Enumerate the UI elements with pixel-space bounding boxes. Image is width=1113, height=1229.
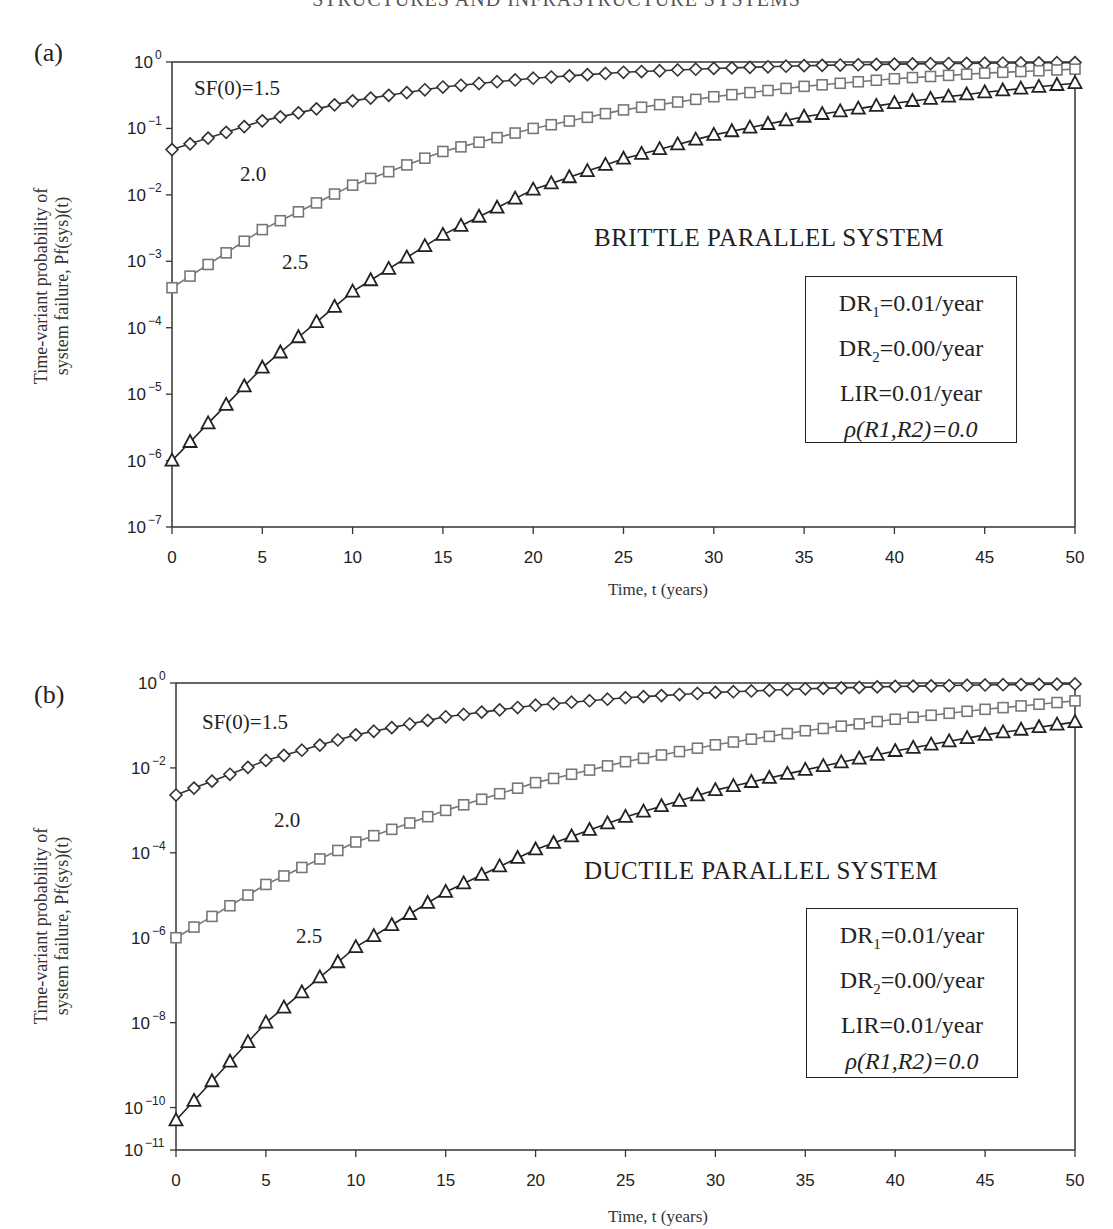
data-point — [944, 708, 954, 718]
data-point — [495, 789, 505, 799]
data-point — [690, 63, 702, 75]
data-point — [637, 691, 649, 703]
data-point — [315, 854, 325, 864]
data-point — [600, 109, 610, 119]
data-point — [530, 699, 542, 711]
x-tick-label: 25 — [614, 548, 633, 567]
y-tick-label: 10 — [134, 53, 153, 72]
data-point — [202, 132, 214, 144]
data-point — [310, 103, 322, 115]
data-point — [349, 940, 362, 952]
x-tick-label: 45 — [976, 1171, 995, 1190]
data-point — [367, 929, 380, 941]
data-point — [403, 907, 416, 919]
data-point — [475, 868, 488, 880]
data-point — [799, 81, 809, 91]
svg-text:−2: −2 — [148, 181, 162, 195]
data-point — [188, 782, 200, 794]
data-point — [347, 95, 359, 107]
data-point — [602, 693, 614, 705]
data-point — [382, 262, 395, 274]
data-point — [656, 750, 666, 760]
data-point — [998, 67, 1008, 77]
x-tick-label: 30 — [706, 1171, 725, 1190]
data-point — [764, 731, 774, 741]
chart-panel-a: 10010−110−210−310−410−510−610−7051015202… — [0, 40, 1113, 630]
data-point — [243, 890, 253, 900]
data-point — [673, 689, 685, 701]
svg-text:−6: −6 — [148, 447, 162, 461]
data-point — [871, 75, 881, 85]
data-point — [962, 706, 972, 716]
svg-text:0: 0 — [155, 48, 162, 62]
data-point — [185, 271, 195, 281]
data-point — [852, 59, 864, 71]
param-lir: LIR=0.01/year — [806, 375, 1016, 411]
series-label-sf25: 2.5 — [282, 250, 308, 275]
x-tick-label: 5 — [261, 1171, 270, 1190]
data-point — [512, 702, 524, 714]
data-point — [834, 59, 846, 71]
param-lir: LIR=0.01/year — [807, 1007, 1017, 1043]
data-point — [1016, 701, 1026, 711]
data-point — [545, 71, 557, 83]
data-point — [206, 775, 218, 787]
data-point — [531, 778, 541, 788]
x-tick-label: 25 — [616, 1171, 635, 1190]
data-point — [259, 1016, 272, 1028]
data-point — [692, 743, 702, 753]
data-point — [473, 78, 485, 90]
data-point — [458, 708, 470, 720]
data-point — [351, 837, 361, 847]
data-point — [385, 918, 398, 930]
data-point — [1034, 66, 1044, 76]
data-point — [295, 985, 308, 997]
y-tick-label: 10 — [131, 759, 150, 778]
data-point — [818, 723, 828, 733]
data-point — [439, 885, 452, 897]
data-point — [655, 690, 667, 702]
data-point — [889, 74, 899, 84]
x-tick-label: 15 — [436, 1171, 455, 1190]
y-axis-label: Time-variant probability of system failu… — [31, 751, 73, 1101]
data-point — [491, 201, 504, 213]
data-point — [1070, 696, 1080, 706]
y-tick-label: 10 — [131, 929, 150, 948]
series-label-sf15: SF(0)=1.5 — [202, 710, 288, 735]
chart-panel-b: 10010−210−410−610−810−1010−1105101520253… — [0, 660, 1113, 1229]
data-point — [962, 69, 972, 79]
data-point — [473, 210, 486, 222]
data-point — [727, 90, 737, 100]
data-point — [310, 315, 323, 327]
data-point — [365, 92, 377, 104]
data-point — [369, 831, 379, 841]
data-point — [314, 739, 326, 751]
data-point — [691, 687, 703, 699]
data-point — [998, 703, 1008, 713]
data-point — [853, 77, 863, 87]
param-dr2: DR2=0.00/year — [807, 962, 1017, 1007]
x-tick-label: 0 — [171, 1171, 180, 1190]
data-point — [476, 706, 488, 718]
param-dr1: DR1=0.01/year — [806, 285, 1016, 330]
data-point — [423, 812, 433, 822]
data-point — [528, 123, 538, 133]
data-point — [459, 800, 469, 810]
x-tick-label: 50 — [1066, 1171, 1085, 1190]
y-tick-label: 10 — [131, 1014, 150, 1033]
data-point — [420, 153, 430, 163]
x-tick-label: 5 — [258, 548, 267, 567]
param-dr1: DR1=0.01/year — [807, 917, 1017, 962]
data-point — [619, 105, 629, 115]
y-tick-label: 10 — [127, 319, 146, 338]
data-point — [387, 824, 397, 834]
x-tick-label: 10 — [343, 548, 362, 567]
svg-text:−6: −6 — [152, 924, 166, 938]
data-point — [494, 704, 506, 716]
data-point — [224, 768, 236, 780]
data-point — [436, 228, 449, 240]
y-tick-label: 10 — [127, 452, 146, 471]
x-axis-label: Time, t (years) — [508, 580, 808, 600]
svg-text:−1: −1 — [148, 114, 162, 128]
data-point — [493, 859, 506, 871]
